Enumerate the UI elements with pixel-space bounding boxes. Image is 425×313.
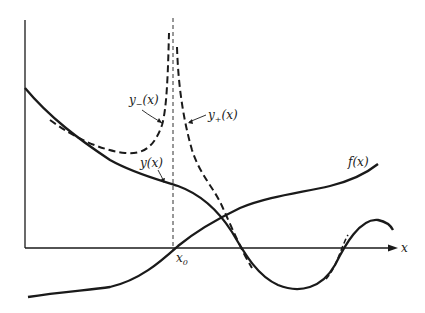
y-minus-arrowhead-icon: [157, 118, 162, 123]
x0-label: x0: [176, 251, 188, 267]
y-plus-label: y+(x): [207, 108, 238, 124]
y-label: y(x): [139, 156, 163, 170]
f-label: f(x): [347, 155, 369, 169]
y-plus-arrowhead-icon: [188, 119, 193, 124]
diagram-canvas: x x0 y−(x) y+(x) y(x) f(x): [0, 0, 425, 313]
y-minus-label: y−(x): [128, 93, 159, 109]
x-axis-label: x: [401, 241, 408, 255]
x-axis-arrow-icon: [388, 245, 398, 252]
curve-y-plus: [177, 47, 252, 268]
